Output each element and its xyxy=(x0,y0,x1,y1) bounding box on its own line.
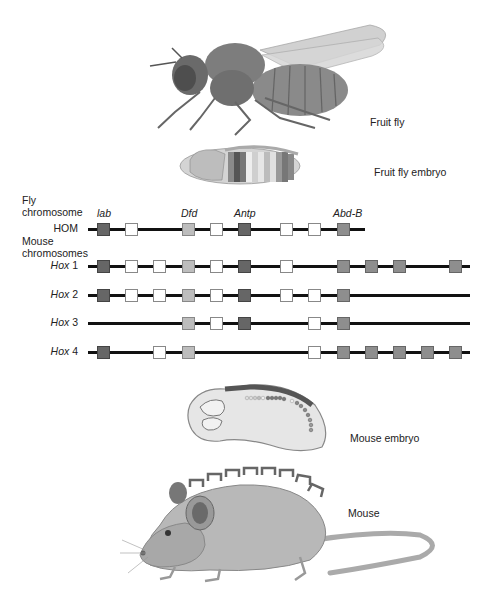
hox-prefix: Hox xyxy=(51,345,70,357)
gene-box-mid xyxy=(449,260,462,273)
gene-box-light xyxy=(182,223,195,236)
chromosome-row-label: Hox 2 xyxy=(18,288,78,300)
mouse-illustration xyxy=(0,445,488,595)
gene-box-dark xyxy=(97,289,110,302)
mouse-embryo-label: Mouse embryo xyxy=(350,432,419,444)
hox-prefix: Hox xyxy=(51,316,70,328)
gene-box-mid xyxy=(365,260,378,273)
hox-prefix: Hox xyxy=(51,259,70,271)
fly-chromosome-label-line1: Fly xyxy=(22,194,83,206)
gene-box-mid xyxy=(337,317,350,330)
gene-box-white xyxy=(125,289,138,302)
gene-box-mid xyxy=(393,260,406,273)
chromosome-line xyxy=(88,322,470,325)
row-name: 4 xyxy=(72,345,78,357)
gene-box-white xyxy=(153,346,166,359)
fly-chromosome-label-line2: chromosome xyxy=(22,206,83,218)
mouse-chromosomes-label-line1: Mouse xyxy=(22,235,88,247)
gene-box-dark xyxy=(97,260,110,273)
fruit-fly-illustration xyxy=(0,0,488,140)
gene-box-light xyxy=(182,289,195,302)
gene-box-white xyxy=(210,223,223,236)
gene-label-lab: lab xyxy=(97,207,111,219)
fly-chromosome-label: Fly chromosome xyxy=(22,194,83,218)
row-name: 1 xyxy=(72,259,78,271)
gene-box-mid xyxy=(365,346,378,359)
gene-box-white xyxy=(308,223,321,236)
gene-box-white xyxy=(280,223,293,236)
chromosome-row-label: Hox 4 xyxy=(18,345,78,357)
gene-box-dark xyxy=(238,223,251,236)
gene-box-dark xyxy=(238,317,251,330)
fruit-fly-embryo-label: Fruit fly embryo xyxy=(374,166,446,178)
row-name: 2 xyxy=(72,288,78,300)
fruit-fly-label: Fruit fly xyxy=(370,116,404,128)
gene-box-white xyxy=(308,317,321,330)
gene-box-dark xyxy=(97,346,110,359)
row-name: 3 xyxy=(72,316,78,328)
chromosome-line xyxy=(88,294,470,297)
chromosome-row-label: Hox 1 xyxy=(18,259,78,271)
gene-box-white xyxy=(125,223,138,236)
gene-box-mid xyxy=(393,346,406,359)
gene-box-white xyxy=(210,317,223,330)
gene-label-abd-b: Abd-B xyxy=(333,207,362,219)
hox-prefix: Hox xyxy=(51,288,70,300)
gene-box-dark xyxy=(238,289,251,302)
chromosome-line xyxy=(88,265,470,268)
mouse-label: Mouse xyxy=(348,507,380,519)
gene-box-light xyxy=(182,346,195,359)
gene-box-mid xyxy=(337,289,350,302)
gene-box-white xyxy=(210,260,223,273)
gene-label-dfd: Dfd xyxy=(181,207,197,219)
gene-box-mid xyxy=(337,223,350,236)
chromosome-row-label: Hox 3 xyxy=(18,316,78,328)
gene-box-white xyxy=(125,260,138,273)
gene-box-white xyxy=(153,289,166,302)
chromosome-row-label: HOM xyxy=(18,222,78,234)
chromosome-line xyxy=(88,351,470,354)
gene-box-white xyxy=(153,260,166,273)
gene-box-white xyxy=(308,289,321,302)
gene-box-mid xyxy=(449,346,462,359)
gene-box-light xyxy=(182,260,195,273)
mouse-chromosomes-label-line2: chromosomes xyxy=(22,247,88,259)
gene-box-mid xyxy=(337,260,350,273)
gene-label-antp: Antp xyxy=(234,207,256,219)
gene-box-white xyxy=(280,289,293,302)
gene-box-mid xyxy=(421,346,434,359)
gene-box-dark xyxy=(238,260,251,273)
gene-box-light xyxy=(182,317,195,330)
gene-box-white xyxy=(308,346,321,359)
mouse-chromosomes-label: Mouse chromosomes xyxy=(22,235,88,259)
gene-box-white xyxy=(210,289,223,302)
row-name: HOM xyxy=(54,222,79,234)
gene-box-mid xyxy=(337,346,350,359)
gene-box-white xyxy=(280,260,293,273)
gene-box-dark xyxy=(97,223,110,236)
